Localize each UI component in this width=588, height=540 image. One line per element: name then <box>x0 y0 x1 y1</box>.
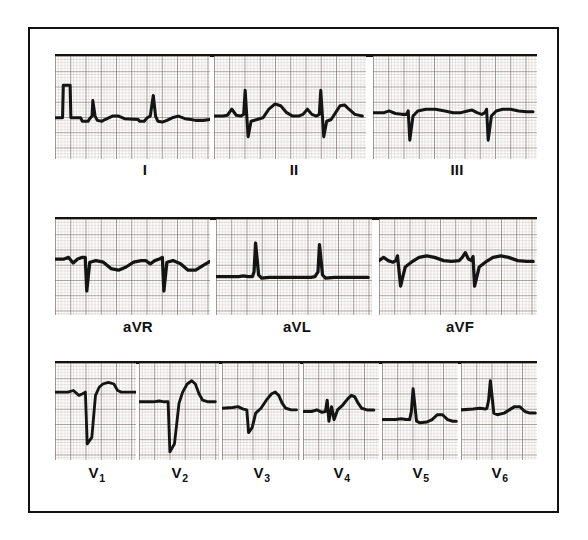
lead-label-subscript: 3 <box>264 472 271 484</box>
ecg-panel-v1 <box>55 363 136 460</box>
ecg-trace-v1 <box>55 363 136 460</box>
lead-label-subscript: 1 <box>99 472 106 484</box>
ecg-trace-v5 <box>382 363 458 460</box>
ecg-panel-avl <box>216 219 372 315</box>
ecg-panel-avr <box>55 219 210 315</box>
lead-label-text: V <box>254 464 264 481</box>
lead-label-text: V <box>89 464 99 481</box>
lead-label-v2: V2 <box>140 465 220 483</box>
lead-label-v3: V3 <box>222 465 302 483</box>
lead-label-text: V <box>492 464 502 481</box>
lead-label-v1: V1 <box>57 465 137 483</box>
ecg-panel-v4 <box>303 363 379 460</box>
ecg-trace-iii <box>373 56 537 159</box>
ecg-trace-ii <box>214 56 366 159</box>
ecg-panel-ii <box>214 56 366 159</box>
lead-label-subscript: 5 <box>423 472 430 484</box>
ecg-panel-v3 <box>222 363 300 460</box>
ecg-panel-v5 <box>382 363 458 460</box>
ecg-trace-avf <box>379 219 537 315</box>
figure-border: I II <box>28 27 559 513</box>
ecg-trace-v3 <box>222 363 300 460</box>
lead-label-text: V <box>413 464 423 481</box>
lead-label-avl: aVL <box>257 319 337 334</box>
ecg-figure: I II <box>0 0 588 540</box>
ecg-panel-v6 <box>461 363 537 460</box>
lead-label-v6: V6 <box>460 465 540 483</box>
lead-label-v5: V5 <box>381 465 461 483</box>
ecg-panel-v2 <box>139 363 219 460</box>
ecg-trace-i <box>55 56 210 159</box>
lead-label-text: V <box>334 464 344 481</box>
ecg-trace-v4 <box>303 363 379 460</box>
lead-label-avr: aVR <box>98 319 178 334</box>
ecg-panel-iii <box>373 56 537 159</box>
lead-label-v4: V4 <box>302 465 382 483</box>
lead-label-ii: II <box>254 162 334 177</box>
ecg-trace-avr <box>55 219 210 315</box>
lead-label-text: V <box>172 464 182 481</box>
lead-label-subscript: 4 <box>344 472 351 484</box>
lead-label-iii: III <box>417 162 497 177</box>
lead-label-avf: aVF <box>420 319 500 334</box>
ecg-trace-avl <box>216 219 372 315</box>
ecg-panel-i <box>55 56 210 159</box>
lead-label-i: I <box>105 162 185 177</box>
ecg-trace-v6 <box>461 363 537 460</box>
lead-label-subscript: 6 <box>502 472 509 484</box>
ecg-trace-v2 <box>139 363 219 460</box>
lead-label-subscript: 2 <box>182 472 189 484</box>
ecg-panel-avf <box>379 219 537 315</box>
